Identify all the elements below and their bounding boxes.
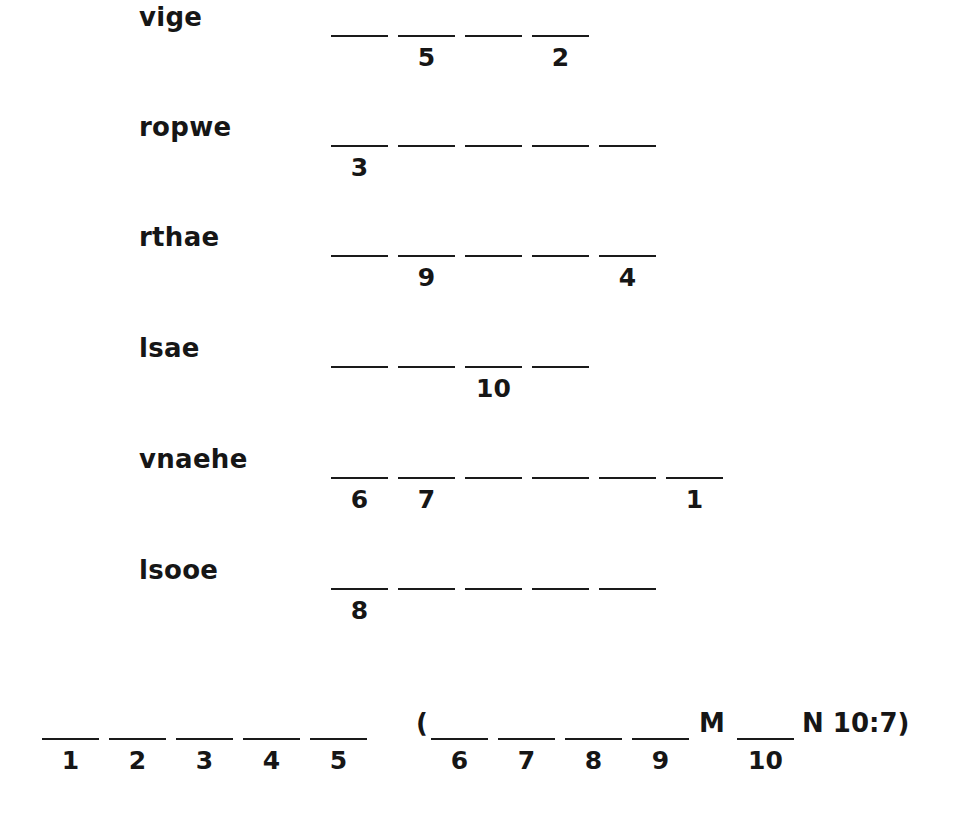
- final-blank-number: 10: [737, 746, 794, 775]
- final-blank-number: 2: [109, 746, 166, 775]
- scrambled-word: vige: [139, 2, 202, 32]
- answer-blank[interactable]: [398, 588, 455, 590]
- answer-blank[interactable]: [599, 588, 656, 590]
- letter-m: M: [699, 708, 725, 738]
- blank-number: 4: [599, 263, 656, 292]
- scrambled-word: lsae: [139, 333, 200, 363]
- answer-blank[interactable]: [331, 145, 388, 147]
- final-answer-blank[interactable]: [498, 738, 555, 740]
- answer-blank[interactable]: [398, 477, 455, 479]
- final-answer-blank[interactable]: [42, 738, 99, 740]
- answer-blank[interactable]: [532, 366, 589, 368]
- final-answer-blank[interactable]: [632, 738, 689, 740]
- answer-blank[interactable]: [599, 145, 656, 147]
- final-answer-blank[interactable]: [565, 738, 622, 740]
- blank-number: 2: [532, 43, 589, 72]
- answer-blank[interactable]: [532, 588, 589, 590]
- scrambled-word: ropwe: [139, 112, 231, 142]
- final-answer-blank[interactable]: [109, 738, 166, 740]
- scrambled-word: rthae: [139, 222, 219, 252]
- final-answer-blank[interactable]: [310, 738, 367, 740]
- answer-blank[interactable]: [331, 35, 388, 37]
- blank-number: 3: [331, 153, 388, 182]
- final-answer-blank[interactable]: [176, 738, 233, 740]
- answer-blank[interactable]: [465, 477, 522, 479]
- answer-blank[interactable]: [331, 477, 388, 479]
- reference-suffix: N 10:7): [802, 708, 909, 738]
- final-blank-number: 4: [243, 746, 300, 775]
- scrambled-word: vnaehe: [139, 444, 248, 474]
- scrambled-word: lsooe: [139, 555, 218, 585]
- answer-blank[interactable]: [398, 35, 455, 37]
- answer-blank[interactable]: [465, 255, 522, 257]
- answer-blank[interactable]: [465, 145, 522, 147]
- answer-blank[interactable]: [532, 35, 589, 37]
- answer-blank[interactable]: [465, 588, 522, 590]
- answer-blank[interactable]: [532, 145, 589, 147]
- answer-blank[interactable]: [465, 366, 522, 368]
- answer-blank[interactable]: [532, 477, 589, 479]
- final-answer-blank[interactable]: [243, 738, 300, 740]
- blank-number: 5: [398, 43, 455, 72]
- final-blank-number: 3: [176, 746, 233, 775]
- final-blank-number: 5: [310, 746, 367, 775]
- final-blank-number: 6: [431, 746, 488, 775]
- blank-number: 7: [398, 485, 455, 514]
- blank-number: 10: [465, 374, 522, 403]
- answer-blank[interactable]: [398, 145, 455, 147]
- answer-blank[interactable]: [599, 255, 656, 257]
- answer-blank[interactable]: [331, 255, 388, 257]
- blank-number: 8: [331, 596, 388, 625]
- final-blank-number: 7: [498, 746, 555, 775]
- answer-blank[interactable]: [599, 477, 656, 479]
- blank-number: 1: [666, 485, 723, 514]
- blank-number: 9: [398, 263, 455, 292]
- answer-blank[interactable]: [666, 477, 723, 479]
- final-blank-number: 1: [42, 746, 99, 775]
- final-answer-blank[interactable]: [737, 738, 794, 740]
- answer-blank[interactable]: [398, 366, 455, 368]
- blank-number: 6: [331, 485, 388, 514]
- answer-blank[interactable]: [398, 255, 455, 257]
- final-blank-number: 9: [632, 746, 689, 775]
- answer-blank[interactable]: [465, 35, 522, 37]
- final-blank-number: 8: [565, 746, 622, 775]
- answer-blank[interactable]: [331, 588, 388, 590]
- final-answer-blank[interactable]: [431, 738, 488, 740]
- answer-blank[interactable]: [331, 366, 388, 368]
- answer-blank[interactable]: [532, 255, 589, 257]
- open-paren: (: [416, 708, 428, 738]
